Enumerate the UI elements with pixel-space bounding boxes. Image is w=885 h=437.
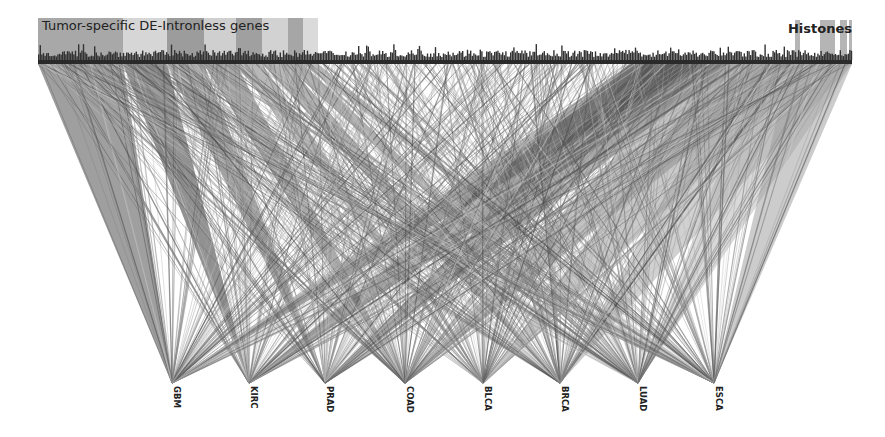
tumor-label-blca: BLCA xyxy=(483,386,493,411)
group-label-histones: Histones xyxy=(788,21,852,36)
group-label-intronless: Tumor-specific DE-Intronless genes xyxy=(41,18,269,33)
gene-tumor-link-diagram: Tumor-specific DE-Intronless genes Histo… xyxy=(0,0,885,437)
tumor-label-brca: BRCA xyxy=(560,386,570,412)
tumor-label-prad: PRAD xyxy=(325,386,335,412)
top-axis-baseline xyxy=(38,60,852,64)
tumor-label-esca: ESCA xyxy=(714,386,724,411)
gene-tumor-links xyxy=(38,64,852,383)
label-band xyxy=(288,18,303,60)
tumor-label-luad: LUAD xyxy=(638,386,648,411)
tumor-label-kirc: KIRC xyxy=(249,386,259,409)
tumor-nodes: GBMKIRCPRADCOADBLCABRCALUADESCA xyxy=(172,386,724,413)
tumor-label-coad: COAD xyxy=(405,386,415,413)
tumor-label-gbm: GBM xyxy=(172,386,182,408)
